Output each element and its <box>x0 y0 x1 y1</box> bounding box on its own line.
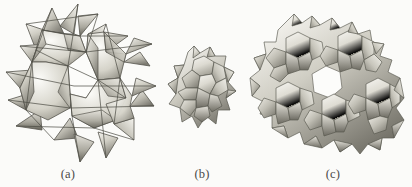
figure-panel-a <box>2 0 164 165</box>
panel-caption-b: (b) <box>172 166 232 182</box>
figure-panel-b <box>160 38 245 150</box>
figure-panel-c <box>242 8 412 166</box>
figure-plate: (a) (b) (c) <box>0 0 412 187</box>
cell-assembly-icon <box>242 8 412 166</box>
star-polyhedron-surface-icon <box>2 0 164 165</box>
panel-caption-a: (a) <box>38 166 98 182</box>
panel-caption-c: (c) <box>303 166 363 182</box>
single-cell-polyhedron-icon <box>160 38 245 150</box>
